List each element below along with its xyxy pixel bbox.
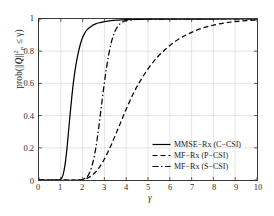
- ylabel-superscript: 2: [12, 50, 19, 53]
- y-axis-label: prob(||Q||2F ≤ γ): [12, 0, 26, 119]
- x-tick-label: 9: [234, 183, 238, 192]
- x-tick-label: 1: [58, 183, 62, 192]
- legend-label: MMSE−Rx (C−CSI): [174, 140, 241, 149]
- legend-item: MMSE−Rx (C−CSI): [152, 139, 256, 150]
- x-tick-label: 2: [80, 183, 84, 192]
- legend-line-sample: [152, 140, 171, 149]
- cdf-chart-figure: 012345678910 00.20.40.60.81 γ prob(||Q||…: [0, 0, 274, 216]
- x-tick-label: 10: [254, 183, 263, 192]
- ylabel-symbol: Q: [14, 57, 24, 64]
- x-tick-label: 7: [190, 183, 194, 192]
- x-tick-label: 5: [146, 183, 150, 192]
- y-tick-label: 0.2: [0, 144, 34, 153]
- legend-item: MF−Rx (P−CSI): [152, 150, 256, 161]
- ylabel-prefix: prob(||: [14, 64, 24, 88]
- x-tick-label: 3: [102, 183, 106, 192]
- x-axis-label: γ: [148, 193, 152, 203]
- y-tick-label: 0: [0, 177, 34, 186]
- legend-line-sample: [152, 151, 171, 160]
- ylabel-norm: ||: [14, 54, 24, 58]
- legend-label: MF−Rx (P−CSI): [174, 151, 228, 160]
- x-tick-label: 6: [168, 183, 172, 192]
- legend-item: MF−Rx (S−CSI): [152, 161, 256, 172]
- ylabel-suffix: ≤ γ): [14, 29, 24, 46]
- ylabel-subscript: F: [19, 47, 26, 51]
- x-tick-label: 0: [36, 183, 40, 192]
- legend: MMSE−Rx (C−CSI)MF−Rx (P−CSI)MF−Rx (S−CSI…: [152, 139, 256, 172]
- legend-label: MF−Rx (S−CSI): [174, 162, 228, 171]
- x-tick-label: 8: [212, 183, 216, 192]
- x-tick-label: 4: [124, 183, 128, 192]
- legend-line-sample: [152, 162, 171, 171]
